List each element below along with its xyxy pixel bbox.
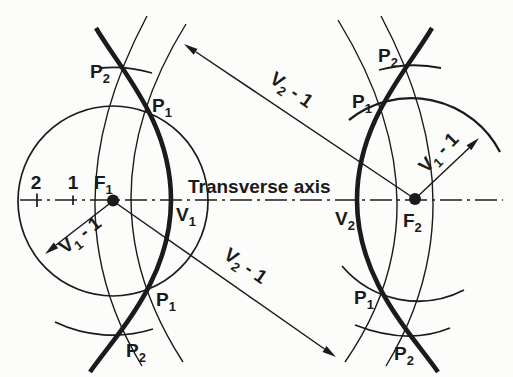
axis-mark-2-label: 2: [31, 172, 42, 193]
r-rest: - 1: [237, 255, 272, 288]
axis-mark-1-label: 1: [68, 172, 79, 193]
focus-f1-sub: 1: [106, 182, 113, 197]
point-p2-top-left-label: P2: [90, 61, 110, 86]
arc-about-f2-radius-v2-1-left: [131, 24, 186, 362]
arrowhead-icon: [184, 44, 198, 55]
p-base: P: [378, 45, 391, 66]
focus-f2-sub: 2: [415, 220, 422, 235]
vertex-v2-base: V: [335, 208, 348, 229]
p-sub: 1: [365, 101, 372, 116]
hyperbola-construction-figure: 2 1 Transverse axis F1 F2 V1 V2 P2 P1 P2…: [0, 0, 513, 377]
focus-f1-base: F: [94, 172, 106, 193]
point-p2-bottom-left-label: P2: [126, 340, 146, 365]
p-base: P: [152, 95, 165, 116]
p-sub: 1: [169, 299, 176, 314]
radius-arrow-v2-1-lower-shaft: [113, 201, 325, 349]
point-p1-bottom-right-label: P1: [354, 287, 374, 312]
radius-label-v1-1-right: V1 - 1: [414, 128, 465, 179]
radius-label-v1-1-left: V1 - 1: [55, 212, 108, 261]
p-sub: 2: [391, 55, 398, 70]
radius-arrow-v2-1-lower: [113, 201, 336, 357]
p-sub: 2: [139, 350, 146, 365]
focus-f1-label: F1: [94, 172, 113, 197]
arrowhead-icon: [323, 346, 337, 357]
focus-f2-label: F2: [403, 210, 422, 235]
p-sub: 1: [367, 297, 374, 312]
transverse-axis-label: Transverse axis: [188, 176, 331, 197]
p-base: P: [352, 91, 365, 112]
vertex-v1-sub: 1: [189, 214, 196, 229]
p-base: P: [354, 287, 367, 308]
radius-label-v2-1-lower: V2 - 1: [218, 243, 272, 291]
p-sub: 1: [165, 105, 172, 120]
p-base: P: [156, 289, 169, 310]
point-p2-bottom-right-label: P2: [394, 343, 414, 368]
vertex-v2-sub: 2: [348, 218, 355, 233]
r-rest: - 1: [283, 79, 318, 112]
p-sub: 2: [407, 353, 414, 368]
vertex-v1-base: V: [176, 204, 189, 225]
focus-f2-base: F: [403, 210, 415, 231]
point-p2-top-right-label: P2: [378, 45, 398, 70]
p-base: P: [394, 343, 407, 364]
arc-about-f1-radius-v1-2-bottom: [55, 322, 153, 335]
vertex-v1-label: V1: [176, 204, 196, 229]
vertex-v2-label: V2: [335, 208, 355, 233]
p-sub: 2: [103, 71, 110, 86]
p-base: P: [90, 61, 103, 82]
focus-f2-dot: [409, 193, 421, 205]
point-p1-bottom-left-label: P1: [156, 289, 176, 314]
radius-label-v2-1-upper: V2 - 1: [264, 67, 318, 115]
p-base: P: [126, 340, 139, 361]
hyperbola-construction-diagram: 2 1 Transverse axis F1 F2 V1 V2 P2 P1 P2…: [0, 0, 513, 377]
